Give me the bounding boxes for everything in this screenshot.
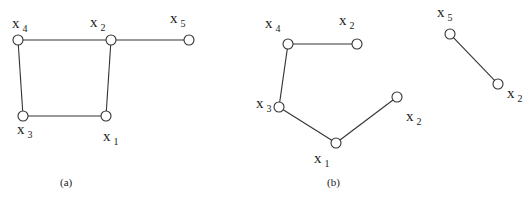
edge-b-x1-b-x2b [340,100,393,140]
node-a-x3 [18,111,28,121]
edge-a-x1-a-x2 [106,45,110,111]
node-label-b-x3: x3 [256,95,272,114]
node-a-x5 [184,35,194,45]
node-label-b-x2c: x2 [507,85,523,104]
edge-b-x3-b-x1 [283,110,332,141]
labels-layer: x4x2x5x3x1x4x2x3x1x2x5x2 [12,4,523,169]
node-label-a-x2: x2 [90,14,106,33]
node-label-b-x2b: x2 [406,108,422,127]
graph-diagram-svg: x4x2x5x3x1x4x2x3x1x2x5x2 (a)(b) [0,0,530,198]
node-b-x2c [493,79,503,89]
node-subscript: 2 [101,22,106,33]
node-subscript: 4 [276,23,281,34]
panel-caption-b: (b) [327,176,340,189]
node-subscript: 2 [350,20,355,31]
node-label-b-x5: x5 [437,4,453,23]
node-subscript: 5 [181,18,186,29]
node-subscript: 2 [417,116,422,127]
panel-caption-a: (a) [60,176,73,189]
node-a-x2 [106,35,116,45]
node-a-x1 [101,111,111,121]
node-subscript: 2 [518,93,523,104]
node-label-b-x2a: x2 [339,12,355,31]
node-label-a-x3: x3 [17,121,33,140]
edge-b-x4-b-x3 [280,49,288,102]
node-label-b-x1: x1 [314,150,330,169]
node-subscript: 3 [267,103,272,114]
node-b-x2b [392,92,402,102]
node-subscript: 1 [114,136,119,147]
node-b-x3 [274,102,284,112]
node-label-a-x4: x4 [12,15,28,34]
node-subscript: 4 [23,23,28,34]
node-b-x4 [283,39,293,49]
edge-a-x4-a-x3 [18,45,22,111]
node-subscript: 3 [28,129,33,140]
node-b-x2a [352,39,362,49]
graph-figure: x4x2x5x3x1x4x2x3x1x2x5x2 (a)(b) [0,0,530,198]
captions-layer: (a)(b) [60,176,340,189]
node-subscript: 1 [325,158,330,169]
edge-b-x5-b-x2c [453,38,494,81]
node-label-a-x5: x5 [170,10,186,29]
edges-layer [18,38,494,141]
nodes-layer [13,29,503,148]
node-b-x5 [445,29,455,39]
node-label-b-x4: x4 [265,15,281,34]
node-subscript: 5 [448,12,453,23]
node-b-x1 [331,138,341,148]
node-label-a-x1: x1 [103,128,119,147]
node-a-x4 [13,35,23,45]
